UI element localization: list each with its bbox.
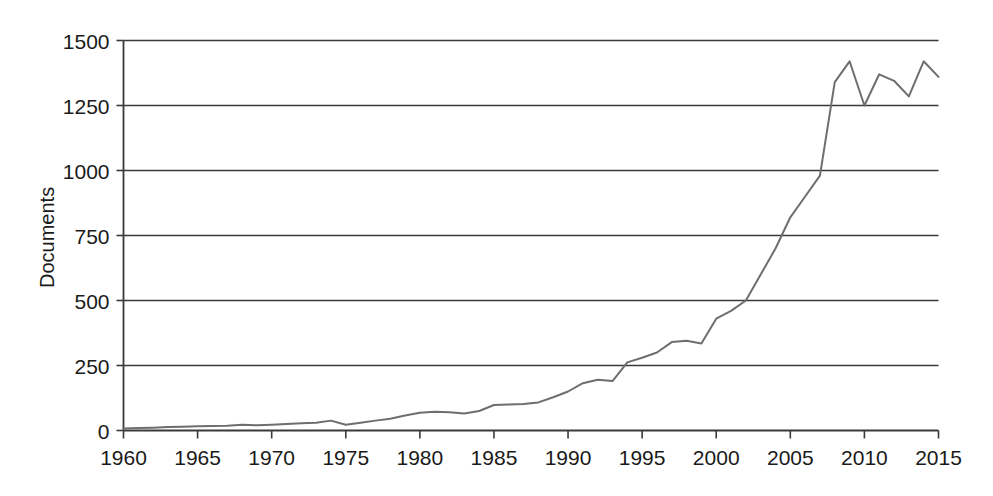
- y-axis-title: Documents: [36, 187, 58, 288]
- x-tick-label-2005: 2005: [767, 446, 814, 469]
- y-tick-label-250: 250: [74, 355, 109, 378]
- x-tick-label-1975: 1975: [322, 446, 369, 469]
- x-tick-label-2010: 2010: [841, 446, 888, 469]
- x-tick-label-1990: 1990: [545, 446, 592, 469]
- y-tick-label-750: 750: [74, 225, 109, 248]
- y-tick-label-0: 0: [98, 420, 110, 443]
- x-tick-label-1985: 1985: [471, 446, 518, 469]
- documents-per-year-line-chart: 0250500750100012501500 19601965197019751…: [0, 0, 993, 496]
- y-tick-label-1500: 1500: [63, 30, 110, 53]
- y-tick-label-1250: 1250: [63, 95, 110, 118]
- x-tick-label-1995: 1995: [619, 446, 666, 469]
- x-tick-label-1960: 1960: [100, 446, 147, 469]
- x-tick-label-1965: 1965: [174, 446, 221, 469]
- x-tick-label-2015: 2015: [915, 446, 962, 469]
- chart-container: 0250500750100012501500 19601965197019751…: [0, 0, 993, 496]
- x-tick-label-2000: 2000: [693, 446, 740, 469]
- y-tick-label-500: 500: [74, 290, 109, 313]
- x-tick-label-1980: 1980: [397, 446, 444, 469]
- x-tick-label-1970: 1970: [248, 446, 295, 469]
- y-tick-label-1000: 1000: [63, 160, 110, 183]
- chart-background: [0, 0, 993, 496]
